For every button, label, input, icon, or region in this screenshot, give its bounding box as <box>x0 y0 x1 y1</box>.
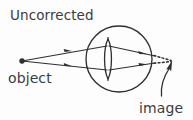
object-point-source <box>19 58 24 63</box>
uncorrected-eye-diagram: Uncorrected object image <box>0 0 193 120</box>
image-label: image <box>139 100 183 116</box>
object-label: object <box>8 70 52 86</box>
diagram-canvas: Uncorrected object image <box>0 0 193 120</box>
figure-title: Uncorrected <box>10 7 94 23</box>
